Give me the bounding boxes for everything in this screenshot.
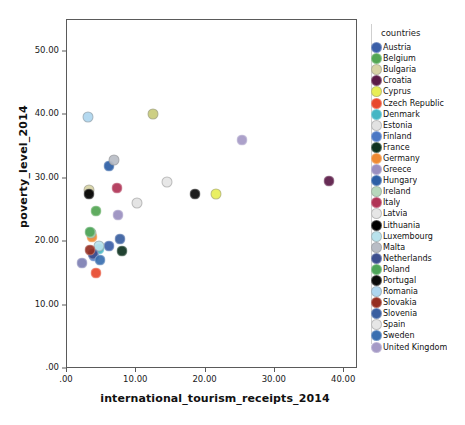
legend-swatch-icon [371, 153, 382, 164]
legend-item-latvia[interactable]: Latvia [371, 208, 465, 219]
legend-item-estonia[interactable]: Estonia [371, 120, 465, 131]
y-tick-label: 50.00 [35, 44, 59, 54]
legend-item-label: Slovakia [383, 298, 417, 307]
legend-item-spain[interactable]: Spain [371, 319, 465, 330]
legend-item-label: Bulgaria [383, 65, 416, 74]
x-tick-label: .00 [59, 374, 73, 384]
legend-swatch-icon [371, 264, 382, 275]
legend-swatch-icon [371, 42, 382, 53]
legend-item-label: Hungary [383, 176, 417, 185]
legend-item-ireland[interactable]: Ireland [371, 186, 465, 197]
legend-swatch-icon [371, 342, 382, 353]
legend-swatch-icon [371, 319, 382, 330]
y-tick-label: 30.00 [35, 171, 59, 181]
legend-item-label: Cyprus [383, 87, 411, 96]
legend-item-sweden[interactable]: Sweden [371, 330, 465, 341]
legend-item-france[interactable]: France [371, 142, 465, 153]
legend-item-slovenia[interactable]: Slovenia [371, 308, 465, 319]
legend-item-luxembourg[interactable]: Luxembourg [371, 231, 465, 242]
legend-item-label: Luxembourg [383, 232, 433, 241]
legend-swatch-icon [371, 98, 382, 109]
legend-item-netherlands[interactable]: Netherlands [371, 253, 465, 264]
y-tick-label: 40.00 [35, 108, 59, 118]
legend-swatch-icon [371, 53, 382, 64]
legend-item-label: Malta [383, 243, 405, 252]
legend-item-slovakia[interactable]: Slovakia [371, 297, 465, 308]
legend-item-italy[interactable]: Italy [371, 197, 465, 208]
legend-swatch-icon [371, 75, 382, 86]
legend-item-label: Poland [383, 265, 410, 274]
legend-item-label: Finland [383, 132, 412, 141]
legend-item-label: Sweden [383, 331, 415, 340]
legend-item-label: Latvia [383, 209, 407, 218]
y-tick-mark [62, 114, 66, 115]
legend-item-croatia[interactable]: Croatia [371, 75, 465, 86]
legend-item-hungary[interactable]: Hungary [371, 175, 465, 186]
legend-item-greece[interactable]: Greece [371, 164, 465, 175]
x-tick-label: 40.00 [331, 374, 355, 384]
legend-item-belgium[interactable]: Belgium [371, 53, 465, 64]
legend-item-cyprus[interactable]: Cyprus [371, 86, 465, 97]
legend-item-label: Netherlands [383, 254, 432, 263]
legend-item-poland[interactable]: Poland [371, 264, 465, 275]
legend-swatch-icon [371, 253, 382, 264]
legend-swatch-icon [371, 86, 382, 97]
x-tick-mark [205, 368, 206, 372]
y-tick-label: 10.00 [35, 298, 59, 308]
y-axis-title: poverty_level_2014 [17, 82, 30, 252]
legend-item-portugal[interactable]: Portugal [371, 275, 465, 286]
legend-swatch-icon [371, 330, 382, 341]
legend-item-lithuania[interactable]: Lithuania [371, 220, 465, 231]
legend-list: AustriaBelgiumBulgariaCroatiaCyprusCzech… [371, 42, 465, 353]
x-tick-mark [274, 368, 275, 372]
legend-swatch-icon [371, 297, 382, 308]
legend-item-label: Romania [383, 287, 418, 296]
legend-item-bulgaria[interactable]: Bulgaria [371, 64, 465, 75]
legend-item-label: Croatia [383, 76, 412, 85]
legend-swatch-icon [371, 164, 382, 175]
y-tick-mark [62, 50, 66, 51]
legend-swatch-icon [371, 142, 382, 153]
legend-item-label: Lithuania [383, 221, 420, 230]
legend-swatch-icon [371, 197, 382, 208]
legend-swatch-icon [371, 208, 382, 219]
legend-item-label: Slovenia [383, 309, 417, 318]
x-tick-label: 30.00 [262, 374, 286, 384]
legend-item-label: Greece [383, 165, 411, 174]
y-tick-mark [62, 177, 66, 178]
legend-swatch-icon [371, 242, 382, 253]
legend-item-czech-republic[interactable]: Czech Republic [371, 97, 465, 108]
legend-swatch-icon [371, 186, 382, 197]
legend-item-germany[interactable]: Germany [371, 153, 465, 164]
legend-item-austria[interactable]: Austria [371, 42, 465, 53]
legend-item-label: Belgium [383, 54, 416, 63]
legend-item-malta[interactable]: Malta [371, 242, 465, 253]
x-axis-title: international_tourism_receipts_2014 [55, 392, 375, 405]
legend-swatch-icon [371, 275, 382, 286]
legend-item-label: Spain [383, 320, 405, 329]
legend-swatch-icon [371, 286, 382, 297]
plot-area-frame [66, 19, 357, 368]
legend-item-label: Ireland [383, 187, 411, 196]
scatter-plot-figure: .0010.0020.0030.0040.0050.00 .0010.0020.… [0, 0, 465, 425]
legend-swatch-icon [371, 131, 382, 142]
legend-swatch-icon [371, 109, 382, 120]
legend-item-romania[interactable]: Romania [371, 286, 465, 297]
legend-item-denmark[interactable]: Denmark [371, 109, 465, 120]
legend-item-label: France [383, 143, 410, 152]
legend-item-label: Denmark [383, 110, 420, 119]
x-tick-label: 10.00 [123, 374, 147, 384]
legend-swatch-icon [371, 231, 382, 242]
legend-item-united-kingdom[interactable]: United Kingdom [371, 342, 465, 353]
x-tick-mark [343, 368, 344, 372]
legend-item-label: Germany [383, 154, 420, 163]
legend-item-label: Austria [383, 43, 411, 52]
legend-title: countries [381, 28, 465, 38]
legend-swatch-icon [371, 64, 382, 75]
legend-swatch-icon [371, 308, 382, 319]
legend-item-label: Estonia [383, 121, 412, 130]
y-tick-label: 20.00 [35, 235, 59, 245]
legend-item-label: United Kingdom [383, 343, 447, 352]
legend-item-finland[interactable]: Finland [371, 131, 465, 142]
y-tick-mark [62, 241, 66, 242]
